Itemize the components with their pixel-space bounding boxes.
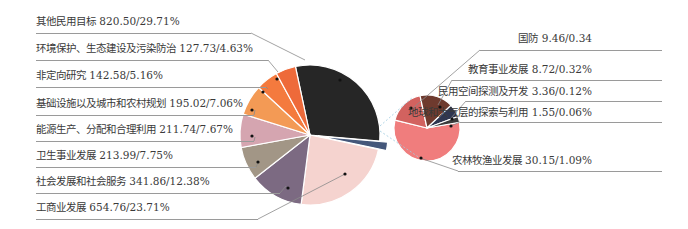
leader-line <box>251 33 305 60</box>
label-rule <box>36 193 280 194</box>
main-pie <box>240 65 388 205</box>
label-industry: 工商业发展 654.76/23.71% <box>36 200 170 214</box>
label-rule <box>466 101 662 102</box>
label-rule <box>36 87 266 88</box>
label-health: 卫生事业发展 213.99/7.75% <box>36 148 173 162</box>
leader-dot <box>275 77 278 80</box>
label-environment: 环境保护、生态建设及污染防治 127.73/4.63% <box>36 41 253 55</box>
label-rule <box>36 219 258 220</box>
label-earth-atmosphere: 地球和大气层的探索与利用 1.55/0.06% <box>408 105 592 119</box>
leader-dot <box>286 186 289 189</box>
leader-dot <box>261 90 264 93</box>
label-energy: 能源生产、分配和合理利用 211.74/7.67% <box>36 122 233 136</box>
label-rule <box>36 167 256 168</box>
label-agriculture: 农林牧渔业发展 30.15/1.09% <box>452 153 592 167</box>
label-education: 教育事业发展 8.72/0.32% <box>468 62 592 76</box>
label-space: 民用空间探测及开发 3.36/0.12% <box>438 84 592 98</box>
label-rule <box>480 50 662 51</box>
leader-dot <box>449 124 452 127</box>
label-rule <box>36 115 254 116</box>
label-defense: 国防 9.46/0.34 <box>518 31 592 45</box>
leader-line <box>268 60 278 72</box>
leader-dot <box>256 160 259 163</box>
label-rule <box>458 171 662 172</box>
label-social: 社会发展和社会服务 341.86/12.38% <box>36 174 210 188</box>
leader-dot <box>250 134 253 137</box>
label-other-civil: 其他民用目标 820.50/29.71% <box>36 14 180 28</box>
label-rule <box>452 80 662 81</box>
leader-dot <box>343 172 346 175</box>
leader-dot <box>338 78 341 81</box>
leader-line <box>413 50 480 108</box>
label-rule <box>36 141 254 142</box>
label-nondirected-research: 非定向研究 142.58/5.16% <box>36 68 163 82</box>
label-rule <box>36 33 251 34</box>
label-rule <box>460 122 662 123</box>
label-rule <box>36 60 268 61</box>
leader-dot <box>250 108 253 111</box>
leader-dot <box>419 156 422 159</box>
label-infrastructure: 基础设施以及城市和农村规划 195.02/7.06% <box>36 96 243 110</box>
